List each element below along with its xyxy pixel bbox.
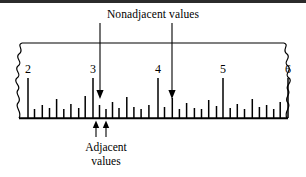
adjacent-values-label-line1: Adjacent [0, 140, 212, 154]
adjacent-values-label-line2: values [0, 154, 212, 168]
adjacent-arrow-left [93, 121, 99, 138]
figure-container: Nonadjacent values [0, 0, 306, 177]
axis-tick-label-5: 5 [220, 62, 226, 76]
nonadjacent-arrow-left [96, 23, 103, 99]
axis-tick-labels: 2 3 4 5 6 [25, 62, 291, 76]
adjacent-values-label: Adjacent values [0, 140, 212, 168]
value-ticks [28, 78, 288, 118]
nonadjacent-arrow-right [168, 23, 175, 99]
axis-tick-label-4: 4 [155, 62, 161, 76]
adjacent-arrow-right [103, 121, 109, 138]
axis-tick-label-3: 3 [90, 62, 96, 76]
axis-tick-label-2: 2 [25, 62, 31, 76]
axis-tick-label-6: 6 [285, 62, 291, 76]
